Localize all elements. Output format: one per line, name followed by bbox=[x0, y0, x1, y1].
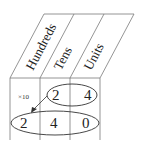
row2-hundreds: 2 bbox=[20, 115, 28, 131]
place-value-diagram: Hundreds Tens Units ×10 2 4 2 4 0 bbox=[0, 0, 144, 151]
header-tens: Tens bbox=[50, 44, 75, 73]
row2-tens: 4 bbox=[50, 115, 58, 131]
row1-units: 4 bbox=[84, 87, 92, 103]
arrow-icon bbox=[31, 96, 47, 113]
row2-units: 0 bbox=[82, 115, 90, 131]
multiply-label: ×10 bbox=[18, 93, 29, 101]
header-units: Units bbox=[80, 40, 106, 72]
row1-tens: 2 bbox=[52, 87, 60, 103]
